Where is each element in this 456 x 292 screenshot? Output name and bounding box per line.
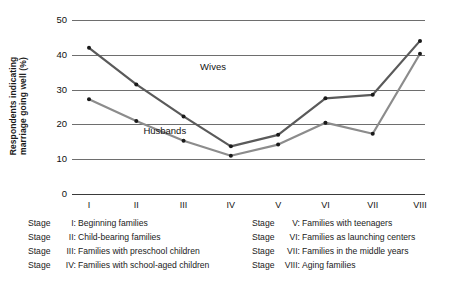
legend-stage-description: Families with teenagers (300, 216, 392, 230)
legend-row: StageVII:Families in the middle years (238, 244, 448, 258)
series-line-wives (89, 41, 420, 146)
data-point-husbands-V (276, 143, 280, 147)
legend-row: StageIV:Families with school-aged childr… (28, 258, 238, 272)
legend-row: StageII:Child-bearing families (28, 230, 238, 244)
data-point-husbands-I (87, 97, 91, 101)
data-point-wives-IV (229, 144, 233, 148)
data-point-wives-VIII (418, 39, 422, 43)
data-point-husbands-IV (229, 154, 233, 158)
legend-stage-number: VI: (279, 230, 300, 244)
x-tick-label-IV: IV (227, 201, 236, 210)
data-point-wives-II (134, 82, 138, 86)
series-label-wives: Wives (200, 62, 226, 72)
legend-stage-description: Child-bearing families (76, 230, 161, 244)
stage-legend-column-left: StageI:Beginning familiesStageII:Child-b… (28, 216, 238, 272)
legend-stage-word: Stage (28, 244, 55, 258)
legend-stage-description: Families with school-aged children (76, 258, 209, 272)
legend-row: StageI:Beginning families (28, 216, 238, 230)
legend-stage-word: Stage (28, 258, 55, 272)
x-tick-label-I: I (88, 201, 91, 210)
legend-stage-number: VIII: (279, 258, 300, 272)
y-tick-label-10: 10 (56, 154, 67, 164)
legend-row: StageIII:Families with preschool childre… (28, 244, 238, 258)
x-tick-label-III: III (180, 201, 188, 210)
y-tick-label-20: 20 (56, 120, 67, 130)
legend-stage-description: Families as launching centers (300, 230, 415, 244)
data-point-husbands-VII (371, 132, 375, 136)
x-tick-label-VII: VII (367, 201, 378, 210)
legend-stage-description: Beginning families (76, 216, 148, 230)
legend-stage-number: IV: (55, 258, 76, 272)
x-tick-label-VI: VI (321, 201, 330, 210)
legend-stage-description: Families in the middle years (300, 244, 409, 258)
data-point-husbands-VI (323, 121, 327, 125)
series-label-husbands: Husbands (143, 126, 186, 136)
y-axis-title-container: Respondents indicating marriage going we… (6, 18, 30, 194)
legend-stage-number: V: (279, 216, 300, 230)
x-tick-label-II: II (134, 201, 139, 210)
stage-legend: StageI:Beginning familiesStageII:Child-b… (28, 216, 448, 272)
legend-stage-word: Stage (252, 244, 279, 258)
legend-stage-word: Stage (28, 216, 55, 230)
x-tick-label-VIII: VIII (413, 201, 427, 210)
legend-stage-number: II: (55, 230, 76, 244)
stage-legend-column-right: StageV:Families with teenagersStageVI:Fa… (238, 216, 448, 272)
y-tick-label-30: 30 (56, 85, 67, 95)
x-tick-label-V: V (275, 201, 281, 210)
series-lines-group (72, 12, 425, 202)
legend-stage-number: I: (55, 216, 76, 230)
y-tick-label-40: 40 (56, 50, 67, 60)
data-point-husbands-III (182, 139, 186, 143)
legend-stage-description: Aging families (300, 258, 356, 272)
y-tick-label-0: 0 (62, 189, 67, 199)
legend-row: StageV:Families with teenagers (238, 216, 448, 230)
data-point-husbands-VIII (418, 52, 422, 56)
legend-row: StageVI:Families as launching centers (238, 230, 448, 244)
data-point-wives-I (87, 46, 91, 50)
legend-row: StageVIII:Aging families (238, 258, 448, 272)
data-point-wives-V (276, 133, 280, 137)
figure-root: Respondents indicating marriage going we… (0, 0, 456, 292)
data-point-wives-III (182, 114, 186, 118)
y-axis-title: Respondents indicating marriage going we… (6, 18, 30, 194)
data-point-husbands-II (134, 119, 138, 123)
legend-stage-description: Families with preschool children (76, 244, 200, 258)
legend-stage-number: III: (55, 244, 76, 258)
legend-stage-word: Stage (252, 258, 279, 272)
y-tick-label-50: 50 (56, 15, 67, 25)
legend-stage-number: VII: (279, 244, 300, 258)
plot-area: 50403020100 WivesHusbands IIIIIIIVVVIVII… (72, 12, 425, 202)
legend-stage-word: Stage (28, 230, 55, 244)
data-point-wives-VII (371, 93, 375, 97)
data-point-wives-VI (323, 96, 327, 100)
legend-stage-word: Stage (252, 216, 279, 230)
legend-stage-word: Stage (252, 230, 279, 244)
